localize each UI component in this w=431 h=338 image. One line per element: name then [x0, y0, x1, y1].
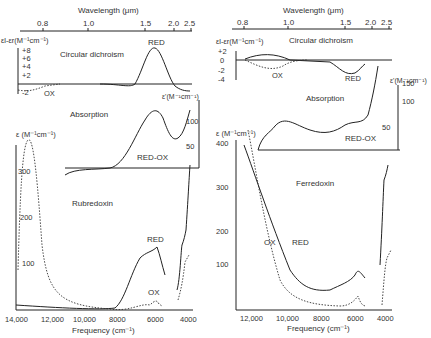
wl-tick: 1.0: [83, 19, 95, 28]
right-main-ylabel: ε (M⁻¹cm⁻¹): [216, 129, 256, 138]
cd-tick: +2: [218, 47, 227, 56]
freq-tick: 10,000: [73, 315, 96, 324]
rubredoxin-label: Rubredoxin: [72, 199, 113, 208]
freq-tick: 4000: [180, 315, 197, 324]
wl-tick: 2.0: [168, 19, 180, 28]
freq-tick: 4000: [377, 314, 394, 323]
abs-tick: 50: [186, 142, 194, 151]
freq-tick: 12,000: [41, 315, 64, 324]
wl-tick: 2.5: [184, 19, 196, 28]
left-cd-red-label: RED: [148, 38, 165, 47]
wl-tick: 1.5: [140, 19, 152, 28]
wl-tick: 2.0: [365, 18, 377, 27]
left-panel-rubredoxin: Wavelength (μm) 0.8 1.0 1.5 2.0 2.5 εl-ε…: [1, 6, 199, 335]
freq-tick: 8000: [313, 314, 330, 323]
abs-tick: 50: [382, 123, 390, 132]
right-panel-ferredoxin: Wavelength (μm) 0.8 1.0 1.5 2.0 2.5 εl-ε…: [216, 6, 427, 333]
left-main-ylabel: ε (M⁻¹cm⁻¹): [16, 130, 56, 139]
main-tick: 100: [216, 260, 229, 269]
ferredoxin-label: Ferredoxin: [296, 179, 334, 188]
cd-tick: 0: [220, 56, 224, 65]
cd-tick: -4: [218, 75, 225, 84]
right-cd-ylabel: εl-εr(M⁻¹cm⁻¹): [216, 37, 264, 46]
right-cd-red-label: RED: [345, 74, 361, 83]
left-freq-title: Frequency (cm⁻¹): [72, 326, 135, 335]
left-abs-ylabel: ε'(M⁻¹cm⁻¹): [162, 93, 199, 101]
main-tick: 300: [18, 167, 31, 176]
main-tick: 200: [216, 227, 229, 236]
main-tick: 400: [216, 139, 229, 148]
right-abs-title: Absorption: [306, 94, 344, 103]
right-abs-redox-label: RED-OX: [345, 134, 377, 143]
abs-tick: 100: [402, 97, 415, 106]
left-wavelength-title: Wavelength (μm): [78, 6, 139, 15]
freq-tick: 8000: [109, 315, 126, 324]
main-tick: 200: [20, 213, 33, 222]
cd-tick: +4: [22, 62, 31, 71]
right-freq-title: Frequency (cm⁻¹): [287, 324, 350, 333]
left-abs-title: Absorption: [70, 110, 108, 119]
right-red-label: RED: [292, 238, 309, 247]
wl-tick: 2.5: [381, 18, 393, 27]
spectra-figure: Wavelength (μm) 0.8 1.0 1.5 2.0 2.5 εl-ε…: [0, 0, 431, 338]
cd-tick: +2: [22, 71, 31, 80]
wl-tick: 1.5: [340, 18, 352, 27]
main-tick: 100: [22, 259, 35, 268]
cd-tick: -2: [218, 66, 225, 75]
wl-tick: 0.8: [37, 19, 49, 28]
right-cd-ox-label: OX: [272, 71, 283, 80]
left-abs-redox-label: RED-OX: [137, 153, 169, 162]
wl-tick: 1.0: [283, 18, 295, 27]
left-cd-ylabel: εl-εr(M⁻¹cm⁻¹): [1, 36, 49, 45]
cd-tick: -2: [22, 88, 29, 97]
freq-tick: 14,000: [5, 315, 28, 324]
freq-tick: 6000: [147, 315, 164, 324]
freq-tick: 6000: [347, 314, 364, 323]
right-wavelength-title: Wavelength (μm): [283, 6, 344, 15]
left-ox-label: OX: [148, 288, 160, 297]
left-cd-ox-label: OX: [44, 89, 55, 98]
main-tick: 300: [216, 183, 229, 192]
left-red-label: RED: [147, 235, 164, 244]
left-cd-title: Circular dichroism: [60, 50, 124, 59]
freq-tick: 10,000: [276, 314, 299, 323]
freq-tick: 12,000: [240, 314, 263, 323]
abs-tick: 150: [402, 79, 415, 88]
right-cd-title: Circular dichroism: [289, 36, 353, 45]
wl-tick: 0.8: [237, 18, 249, 27]
